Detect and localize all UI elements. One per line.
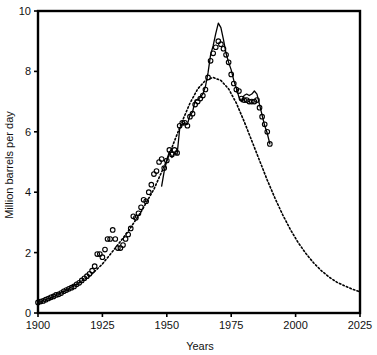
y-tick-label-8: 8 xyxy=(25,65,31,77)
x-tick-label-2000: 2000 xyxy=(283,319,307,331)
data-point xyxy=(139,205,144,210)
axis-frame xyxy=(38,11,360,313)
data-series-group xyxy=(36,23,360,305)
hubbert-curve-line xyxy=(38,77,360,302)
data-point xyxy=(92,264,97,269)
peak-oil-chart: 0246810190019251950197520002025 Years Mi… xyxy=(0,0,377,355)
data-point xyxy=(216,39,221,44)
data-point xyxy=(157,160,162,165)
data-point xyxy=(154,169,159,174)
y-axis-title: Million barrels per day xyxy=(3,111,15,219)
data-point xyxy=(219,42,224,47)
data-point xyxy=(100,255,105,260)
x-tick-label-1900: 1900 xyxy=(26,319,50,331)
data-point xyxy=(149,182,154,187)
data-point xyxy=(159,157,164,162)
data-point xyxy=(213,45,218,50)
y-tick-label-0: 0 xyxy=(25,307,31,319)
chart-plot-area: 0246810190019251950197520002025 Years Mi… xyxy=(0,0,377,355)
series-2 xyxy=(36,39,272,305)
data-point xyxy=(146,190,151,195)
actual-production-line xyxy=(162,23,270,186)
data-point xyxy=(90,268,95,273)
data-point xyxy=(123,237,128,242)
data-point xyxy=(152,172,157,177)
x-tick-label-1975: 1975 xyxy=(219,319,243,331)
data-point xyxy=(103,247,108,252)
y-tick-label-10: 10 xyxy=(19,5,31,17)
series-1 xyxy=(162,23,270,186)
series-0 xyxy=(38,77,360,302)
data-point xyxy=(172,148,177,153)
y-tick-label-4: 4 xyxy=(25,186,31,198)
y-tick-label-6: 6 xyxy=(25,126,31,138)
y-tick-label-2: 2 xyxy=(25,247,31,259)
x-tick-label-1950: 1950 xyxy=(155,319,179,331)
data-point xyxy=(121,243,126,248)
axis-ticks xyxy=(34,11,360,317)
data-point xyxy=(113,237,118,242)
x-tick-label-2025: 2025 xyxy=(348,319,372,331)
x-axis-title: Years xyxy=(186,340,214,352)
data-point xyxy=(110,228,115,233)
x-tick-label-1925: 1925 xyxy=(90,319,114,331)
tick-labels: 0246810190019251950197520002025 xyxy=(19,5,372,331)
